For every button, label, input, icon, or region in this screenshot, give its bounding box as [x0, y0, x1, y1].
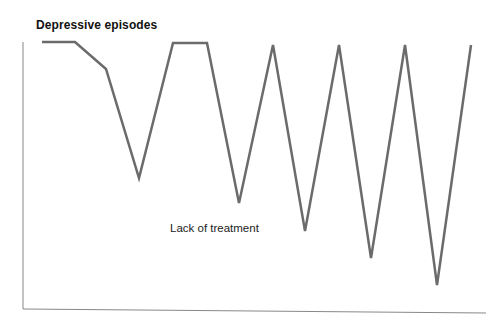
x-axis	[23, 309, 486, 313]
mood-line	[42, 42, 471, 285]
chart-plot	[0, 0, 504, 328]
lack-of-treatment-label: Lack of treatment	[170, 222, 259, 234]
